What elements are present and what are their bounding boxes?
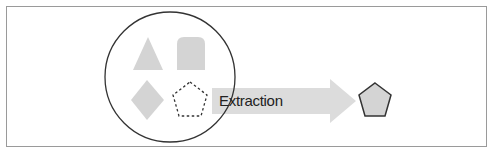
source-set-circle xyxy=(105,12,235,142)
rounded-tab-shape xyxy=(177,37,205,70)
triangle-shape xyxy=(133,37,163,70)
dashed-pentagon-shape xyxy=(173,82,207,116)
diamond-shape xyxy=(131,80,164,120)
diagram-canvas xyxy=(0,0,495,155)
result-pentagon-shape xyxy=(359,83,391,116)
extraction-label: Extraction xyxy=(219,92,283,109)
